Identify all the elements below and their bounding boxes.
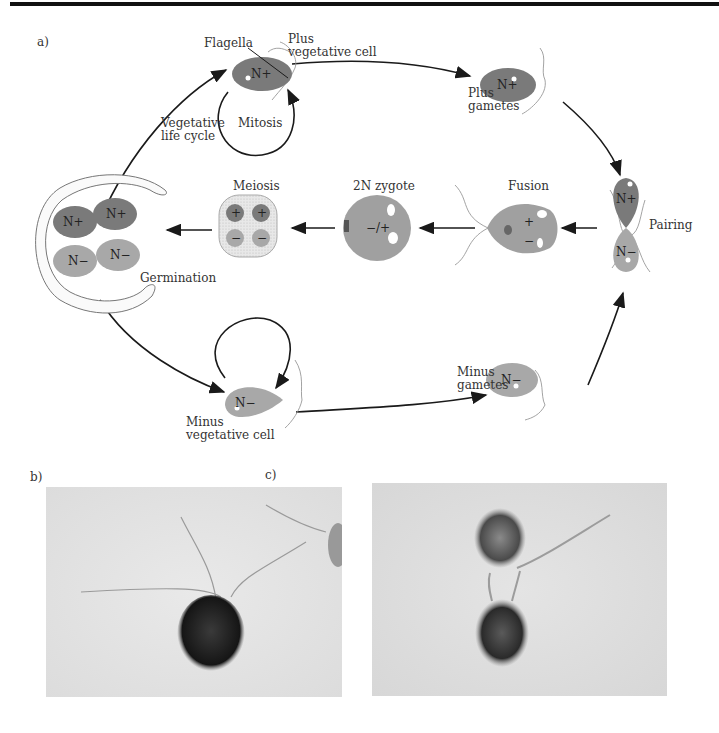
fusion-cell: [487, 204, 558, 253]
plus-mark: +: [257, 206, 267, 220]
minus-mark: −: [231, 231, 241, 245]
n-plus-mark: N+: [616, 192, 637, 206]
mitosis-label: Mitosis: [238, 117, 282, 130]
micrograph-b-drawing: [46, 487, 342, 697]
panel-b-label: b): [30, 470, 42, 484]
pairing-label: Pairing: [649, 219, 693, 232]
n-plus-mark: N+: [63, 215, 84, 229]
germination-label: Germination: [140, 272, 216, 285]
micrograph-c-drawing: [372, 483, 667, 696]
vegetative-life-cycle-label-2: life cycle: [161, 130, 215, 143]
minus-mark: −: [257, 231, 267, 245]
plus-mark: +: [524, 215, 534, 229]
n-minus-mark: N−: [68, 254, 89, 268]
panel-a-label: a): [37, 35, 49, 49]
zygote-mark: −/+: [366, 221, 390, 235]
zygote-label: 2N zygote: [353, 180, 415, 193]
micrograph-c: [372, 483, 667, 696]
minus-vegetative-cell-label-2: vegetative cell: [186, 429, 275, 442]
n-plus-mark: N+: [106, 207, 127, 221]
germination-sporangium: [36, 175, 167, 313]
plus-mark: +: [231, 206, 241, 220]
n-plus-mark: N+: [497, 78, 518, 92]
n-minus-mark: N−: [110, 248, 131, 262]
plus-vegetative-cell-label-2: vegetative cell: [288, 46, 377, 59]
panel-c-label: c): [265, 468, 276, 482]
minus-gametes-label-2: gametes: [457, 379, 508, 392]
meiosis-label: Meiosis: [233, 180, 280, 193]
minus-mark: −: [524, 234, 534, 248]
micrograph-b: [46, 487, 342, 697]
plus-gametes-label-2: gametes: [468, 100, 519, 113]
life-cycle-diagram: [0, 0, 719, 470]
n-minus-mark: N−: [616, 245, 637, 259]
n-minus-mark: N−: [235, 396, 256, 410]
n-plus-mark: N+: [251, 67, 272, 81]
meiosis-tetrad: [219, 195, 277, 257]
fusion-label: Fusion: [508, 180, 549, 193]
flagella-label: Flagella: [204, 37, 253, 50]
